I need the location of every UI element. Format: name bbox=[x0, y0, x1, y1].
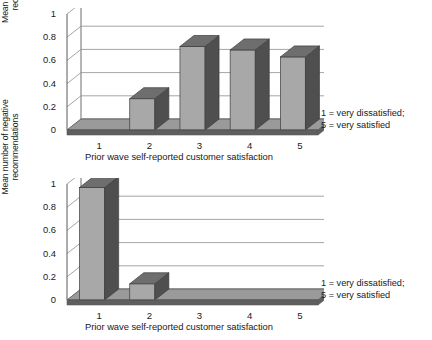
y-axis-ticks-bottom: 00.20.40.60.81 bbox=[34, 178, 56, 310]
x-tick-label: 4 bbox=[238, 310, 262, 321]
y-tick-label: 0.4 bbox=[34, 79, 56, 88]
x-tick-label: 3 bbox=[188, 310, 212, 321]
y-tick-label: 0.4 bbox=[34, 249, 56, 258]
x-tick-label: 2 bbox=[137, 310, 161, 321]
x-axis-title-top: Prior wave self-reported customer satisf… bbox=[34, 151, 324, 162]
y-axis-ticks-top: 00.20.40.60.81 bbox=[34, 8, 56, 140]
x-tick-label: 4 bbox=[238, 140, 262, 151]
y-tick-label: 1 bbox=[34, 9, 56, 18]
negative-recommendations-chart: Mean number of negative recommendations … bbox=[0, 170, 432, 340]
x-tick-label: 5 bbox=[288, 140, 312, 151]
x-tick-label: 1 bbox=[87, 140, 111, 151]
legend-top: 1 = very dissatisfied; 5 = very satisfie… bbox=[321, 108, 405, 131]
y-tick-label: 0.2 bbox=[34, 272, 56, 281]
y-tick-label: 0.8 bbox=[34, 202, 56, 211]
y-tick-label: 0.2 bbox=[34, 102, 56, 111]
x-tick-label: 2 bbox=[137, 140, 161, 151]
y-tick-label: 1 bbox=[34, 179, 56, 188]
bars-bottom bbox=[57, 178, 324, 310]
x-tick-label: 5 bbox=[288, 310, 312, 321]
y-tick-label: 0.6 bbox=[34, 226, 56, 235]
legend-bottom: 1 = very dissatisfied; 5 = very satisfie… bbox=[321, 278, 405, 301]
x-tick-label: 3 bbox=[188, 140, 212, 151]
y-tick-label: 0 bbox=[34, 125, 56, 134]
y-axis-title-bottom: Mean number of negative recommendations bbox=[0, 82, 34, 212]
y-tick-label: 0.8 bbox=[34, 32, 56, 41]
x-tick-label: 1 bbox=[87, 310, 111, 321]
positive-recommendations-chart: Mean number of positive recommendations … bbox=[0, 0, 432, 170]
x-axis-title-bottom: Prior wave self-reported customer satisf… bbox=[34, 321, 324, 332]
y-tick-label: 0 bbox=[34, 295, 56, 304]
plot-area-bottom: 00.20.40.60.81 bbox=[34, 178, 324, 310]
plot-area-top: 00.20.40.60.81 bbox=[34, 8, 324, 140]
y-tick-label: 0.6 bbox=[34, 56, 56, 65]
y-axis-title-top: Mean number of positive recommendations bbox=[0, 0, 34, 42]
bars-top bbox=[57, 8, 324, 140]
